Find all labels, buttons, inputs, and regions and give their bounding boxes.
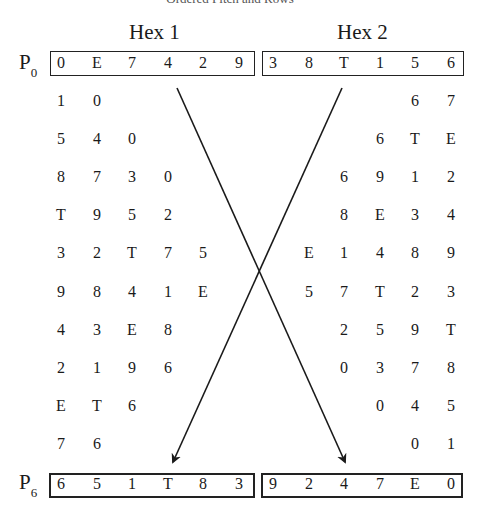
hex2-to-hex1-arrow [173,88,342,462]
crossing-arrows [0,0,491,524]
hex1-to-hex2-arrow [177,88,345,462]
